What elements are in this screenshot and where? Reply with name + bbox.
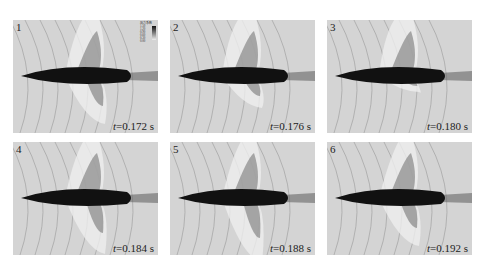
time-label: t=0.180 s: [427, 120, 468, 132]
time-value: =0.180 s: [430, 120, 468, 132]
panel-number: 3: [330, 21, 336, 33]
contour-panel-4: 4t=0.184 s: [13, 142, 158, 255]
time-label: t=0.192 s: [427, 242, 468, 254]
contour-panel-6: 6t=0.192 s: [327, 142, 472, 255]
time-label: t=0.172 s: [113, 120, 154, 132]
time-label: t=0.184 s: [113, 242, 154, 254]
time-value: =0.184 s: [116, 242, 154, 254]
panel-number: 1: [16, 21, 22, 33]
panel-number: 2: [173, 21, 179, 33]
legend-value: 0.00: [140, 40, 156, 43]
time-value: =0.172 s: [116, 120, 154, 132]
panel-number: 4: [16, 143, 22, 155]
panel-number: 6: [330, 143, 336, 155]
time-value: =0.192 s: [430, 242, 468, 254]
time-value: =0.176 s: [273, 120, 311, 132]
contour-panel-3: 3t=0.180 s: [327, 20, 472, 133]
pressure-legend: 压力系数1.501.200.900.600.300.00: [140, 22, 156, 43]
contour-panel-1: 1t=0.172 s压力系数1.501.200.900.600.300.00: [13, 20, 158, 133]
time-value: =0.188 s: [273, 242, 311, 254]
time-label: t=0.188 s: [270, 242, 311, 254]
contour-panel-2: 2t=0.176 s: [170, 20, 315, 133]
legend-colorbar: [152, 26, 156, 40]
contour-panel-5: 5t=0.188 s: [170, 142, 315, 255]
panel-number: 5: [173, 143, 179, 155]
time-label: t=0.176 s: [270, 120, 311, 132]
